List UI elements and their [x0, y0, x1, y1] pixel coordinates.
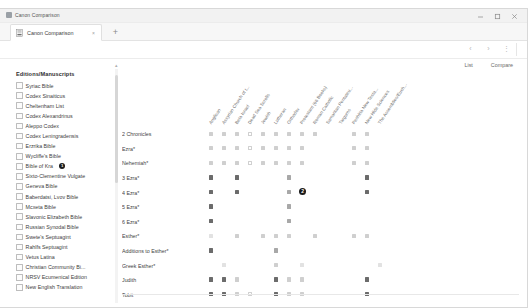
edition-checkbox[interactable]	[16, 254, 23, 261]
grid-cell[interactable]	[365, 175, 369, 179]
grid-cell[interactable]	[287, 190, 291, 194]
grid-cell[interactable]	[274, 146, 278, 150]
book-row-label[interactable]: 4 Ezra*	[122, 185, 206, 200]
edition-checkbox[interactable]	[16, 82, 23, 89]
sidebar-item[interactable]: Mcxeta Bible	[16, 202, 122, 212]
grid-cell[interactable]	[365, 146, 369, 150]
edition-checkbox[interactable]	[16, 264, 23, 271]
book-row-label[interactable]: 5 Ezra*	[122, 200, 206, 215]
grid-cell[interactable]	[300, 263, 304, 267]
book-row-label[interactable]: Esther*	[122, 229, 206, 244]
grid-cell[interactable]	[300, 146, 304, 150]
edition-checkbox[interactable]	[16, 92, 23, 99]
grid-cell[interactable]	[261, 161, 265, 165]
sidebar-item[interactable]: Russian Synodal Bible	[16, 222, 122, 232]
grid-cell[interactable]	[287, 234, 291, 238]
sidebar-item[interactable]: Bible of Kra1	[16, 161, 122, 171]
edition-checkbox[interactable]	[16, 102, 23, 109]
column-header[interactable]: Lutheran	[273, 107, 287, 125]
grid-cell[interactable]	[274, 132, 278, 136]
edition-checkbox[interactable]	[16, 143, 23, 150]
sidebar-scroll-up-icon[interactable]: ▴	[113, 62, 119, 68]
minimize-button[interactable]	[472, 10, 489, 22]
grid-cell[interactable]	[209, 146, 213, 150]
grid-cell[interactable]	[287, 204, 291, 208]
edition-checkbox[interactable]	[16, 133, 23, 140]
grid-cell[interactable]	[209, 175, 213, 179]
edition-checkbox[interactable]	[16, 123, 23, 130]
edition-checkbox[interactable]	[16, 234, 23, 241]
grid-cell[interactable]	[274, 263, 278, 267]
edition-checkbox[interactable]	[16, 284, 23, 291]
grid-cell[interactable]	[365, 190, 369, 194]
sidebar-item[interactable]: Codex Alexandrinus	[16, 111, 122, 121]
grid-cell[interactable]	[222, 263, 226, 267]
sidebar-item[interactable]: Christian Community Bi...	[16, 262, 122, 272]
grid-cell[interactable]	[209, 234, 213, 238]
grid-cell[interactable]	[222, 277, 226, 281]
grid-cell[interactable]	[261, 132, 265, 136]
sidebar-item[interactable]: Sixto-Clementine Vulgate	[16, 171, 122, 181]
sidebar-item[interactable]: NRSV Ecumenical Edition	[16, 272, 122, 282]
grid-cell[interactable]	[274, 248, 278, 252]
sidebar-item[interactable]: Rahlfs Septuagint	[16, 242, 122, 252]
grid-cell[interactable]	[365, 161, 369, 165]
grid-cell[interactable]	[235, 234, 239, 238]
grid-cell[interactable]	[209, 219, 213, 223]
tab-close-icon[interactable]: ×	[91, 30, 96, 36]
sidebar-item[interactable]: Cheltenham List	[16, 101, 122, 111]
book-row-label[interactable]: Additions to Esther*	[122, 244, 206, 259]
sidebar-item[interactable]: Codex Leningradensis	[16, 131, 122, 141]
book-row-label[interactable]: 3 Ezra*	[122, 171, 206, 186]
grid-cell[interactable]	[313, 234, 317, 238]
grid-cell[interactable]	[235, 146, 239, 150]
grid-cell[interactable]	[209, 132, 213, 136]
forward-icon[interactable]: ›	[484, 44, 493, 53]
edition-checkbox[interactable]	[16, 274, 23, 281]
edition-checkbox[interactable]	[16, 163, 23, 170]
grid-cell[interactable]	[352, 161, 356, 165]
tab-canon-comparison[interactable]: Canon Comparison ×	[10, 24, 102, 41]
sidebar-item[interactable]: Wycliffe's Bible	[16, 151, 122, 161]
grid-cell[interactable]	[365, 234, 369, 238]
sidebar-item[interactable]: Aleppo Codex	[16, 121, 122, 131]
sidebar-item[interactable]: Geneva Bible	[16, 181, 122, 191]
sidebar-item[interactable]: Syriac Bible	[16, 81, 122, 91]
grid-cell[interactable]	[352, 234, 356, 238]
back-icon[interactable]: ‹	[466, 44, 475, 53]
grid-cell[interactable]	[209, 190, 213, 194]
sidebar-item[interactable]: Codex Sinaiticus	[16, 91, 122, 101]
grid-cell[interactable]	[352, 132, 356, 136]
grid-cell[interactable]	[352, 146, 356, 150]
grid-cell[interactable]	[287, 219, 291, 223]
grid-cell[interactable]	[235, 277, 239, 281]
grid-cell[interactable]	[248, 146, 252, 150]
close-button[interactable]	[506, 10, 523, 22]
grid-cell[interactable]	[261, 234, 265, 238]
grid-cell[interactable]	[365, 277, 369, 281]
grid-cell[interactable]	[222, 146, 226, 150]
edition-checkbox[interactable]	[16, 173, 23, 180]
edition-checkbox[interactable]	[16, 244, 23, 251]
grid-cell[interactable]	[287, 132, 291, 136]
edition-checkbox[interactable]	[16, 113, 23, 120]
grid-cell[interactable]	[222, 161, 226, 165]
grid-cell[interactable]	[235, 190, 239, 194]
grid-cell[interactable]	[287, 146, 291, 150]
grid-cell[interactable]	[287, 175, 291, 179]
sidebar-item[interactable]: Erzrika Bible	[16, 141, 122, 151]
sidebar-scrollbar-thumb[interactable]	[115, 75, 118, 183]
book-row-label[interactable]: Judith	[122, 273, 206, 288]
column-header[interactable]: Anglican	[208, 108, 222, 125]
grid-cell[interactable]	[209, 248, 213, 252]
grid-cell[interactable]	[300, 132, 304, 136]
edition-checkbox[interactable]	[16, 213, 23, 220]
sidebar-item[interactable]: Baberdatsi, Lvov Bible	[16, 192, 122, 202]
grid-cell[interactable]	[365, 132, 369, 136]
column-header[interactable]: Jewish	[260, 111, 272, 125]
sidebar-item[interactable]: Vetus Latina	[16, 252, 122, 262]
book-row-label[interactable]: Greek Esther*	[122, 258, 206, 273]
sidebar-item[interactable]: Swete's Septuagint	[16, 232, 122, 242]
column-header[interactable]: Targums	[338, 108, 352, 125]
grid-cell[interactable]	[222, 132, 226, 136]
